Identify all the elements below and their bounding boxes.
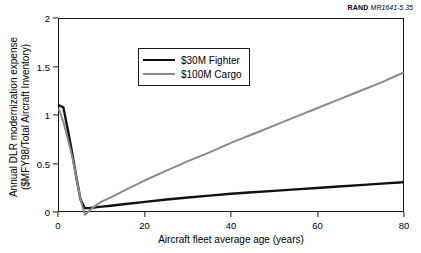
x-tick-mark bbox=[317, 212, 318, 217]
legend: $30M Fighter $100M Cargo bbox=[138, 48, 250, 86]
x-tick-mark bbox=[403, 212, 404, 217]
x-tick-label: 0 bbox=[55, 220, 60, 231]
y-axis-title-line1: Annual DLR modernization expense bbox=[8, 11, 20, 223]
series-line-fighter bbox=[59, 105, 403, 208]
x-tick-label: 80 bbox=[399, 220, 410, 231]
figure: RANDMR1641-5.35 00.511.52020406080 $30M … bbox=[0, 0, 421, 253]
legend-swatch-cargo-icon bbox=[143, 73, 175, 75]
x-tick-mark bbox=[57, 212, 58, 217]
x-tick-label: 60 bbox=[312, 220, 323, 231]
legend-item-fighter: $30M Fighter bbox=[143, 53, 244, 67]
legend-swatch-fighter-icon bbox=[143, 59, 175, 61]
x-tick-mark bbox=[144, 212, 145, 217]
plot-frame: $30M Fighter $100M Cargo bbox=[58, 18, 404, 212]
legend-item-cargo: $100M Cargo bbox=[143, 67, 244, 81]
x-tick-mark bbox=[230, 212, 231, 217]
x-tick-label: 40 bbox=[226, 220, 237, 231]
x-tick-label: 20 bbox=[139, 220, 150, 231]
legend-label-cargo: $100M Cargo bbox=[181, 69, 242, 80]
x-axis-title: Aircraft fleet average age (years) bbox=[58, 234, 404, 245]
y-axis-title-line2: ($MFY98/Total Aircraft Inventory) bbox=[20, 11, 32, 223]
y-axis-title: Annual DLR modernization expense ($MFY98… bbox=[8, 11, 32, 223]
legend-label-fighter: $30M Fighter bbox=[181, 55, 240, 66]
